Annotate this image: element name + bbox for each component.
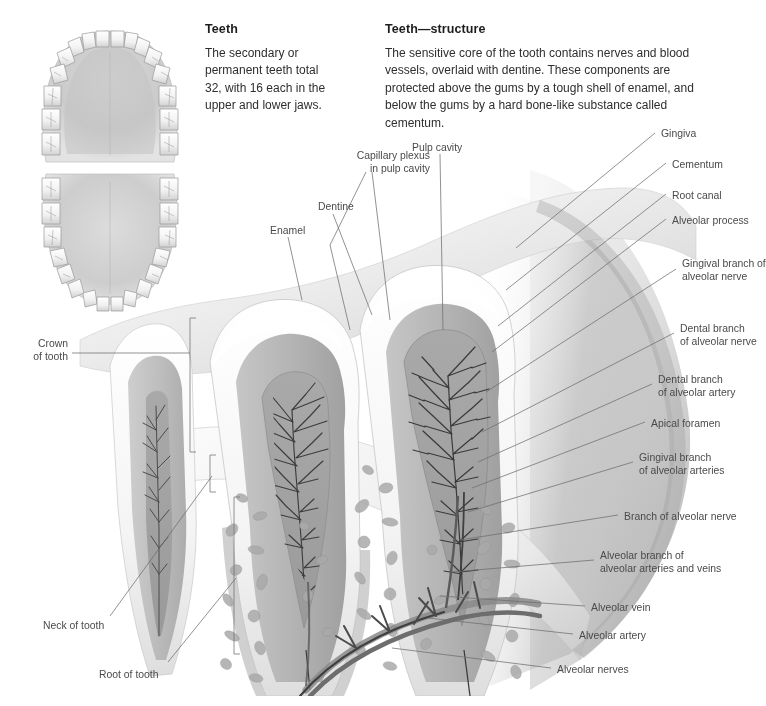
label-alveolar-vein: Alveolar vein bbox=[591, 602, 651, 615]
leader-dentine bbox=[333, 214, 372, 315]
leader-apical-foramen bbox=[472, 422, 645, 488]
leader-root bbox=[168, 578, 236, 662]
label-dentine: Dentine bbox=[318, 201, 354, 214]
label-crown-of-tooth: Crown of tooth bbox=[20, 338, 68, 363]
label-root-of-tooth: Root of tooth bbox=[99, 669, 159, 682]
leader-capillary bbox=[330, 172, 366, 330]
label-apical-foramen: Apical foramen bbox=[651, 418, 720, 431]
bracket-neck bbox=[210, 455, 216, 492]
structure-text-block: Teeth—structure The sensitive core of th… bbox=[385, 22, 695, 132]
teeth-heading: Teeth bbox=[205, 22, 335, 36]
leader-gingival-arteries bbox=[468, 462, 633, 512]
label-alveolar-nerves: Alveolar nerves bbox=[557, 664, 629, 677]
leader-cementum bbox=[506, 163, 666, 290]
bracket-root bbox=[234, 497, 240, 654]
label-alveolar-artery: Alveolar artery bbox=[579, 630, 646, 643]
bracket-crown bbox=[190, 318, 196, 452]
label-enamel: Enamel bbox=[270, 225, 305, 238]
leader-alveolar-artery bbox=[428, 618, 573, 634]
leader-pulp bbox=[440, 154, 443, 330]
label-gingival-branch-nerve: Gingival branch of alveolar nerve bbox=[682, 258, 766, 283]
leader-dental-artery bbox=[478, 384, 652, 462]
illustration-page: Teeth The secondary or permanent teeth t… bbox=[0, 0, 766, 706]
label-branch-alveolar-nerve: Branch of alveolar nerve bbox=[624, 511, 737, 524]
label-dental-branch-artery: Dental branch of alveolar artery bbox=[658, 374, 735, 399]
leader-neck bbox=[110, 476, 212, 616]
leader-alveolar-branch bbox=[452, 560, 594, 572]
label-pulp-cavity: Pulp cavity bbox=[412, 142, 462, 155]
leader-gingiva bbox=[516, 133, 655, 248]
label-alveolar-branch-av: Alveolar branch of alveolar arteries and… bbox=[600, 550, 721, 575]
leader-branch-nerve bbox=[460, 515, 618, 540]
leader-root-canal bbox=[498, 194, 666, 326]
leader-enamel bbox=[288, 237, 302, 300]
leader-alveolar-vein bbox=[440, 596, 585, 606]
label-root-canal: Root canal bbox=[672, 190, 722, 203]
label-cementum: Cementum bbox=[672, 159, 723, 172]
leader-capillary-2 bbox=[372, 172, 390, 320]
structure-heading: Teeth—structure bbox=[385, 22, 695, 36]
leader-alveolar-nerves bbox=[392, 648, 551, 668]
structure-body: The sensitive core of the tooth contains… bbox=[385, 45, 695, 132]
leader-gingival-nerve bbox=[486, 269, 676, 392]
label-dental-branch-nerve: Dental branch of alveolar nerve bbox=[680, 323, 757, 348]
teeth-body: The secondary or permanent teeth total 3… bbox=[205, 45, 335, 115]
label-gingival-branch-arteries: Gingival branch of alveolar arteries bbox=[639, 452, 724, 477]
label-gingiva: Gingiva bbox=[661, 128, 696, 141]
label-neck-of-tooth: Neck of tooth bbox=[43, 620, 104, 633]
teeth-text-block: Teeth The secondary or permanent teeth t… bbox=[205, 22, 335, 115]
label-alveolar-process: Alveolar process bbox=[672, 215, 749, 228]
